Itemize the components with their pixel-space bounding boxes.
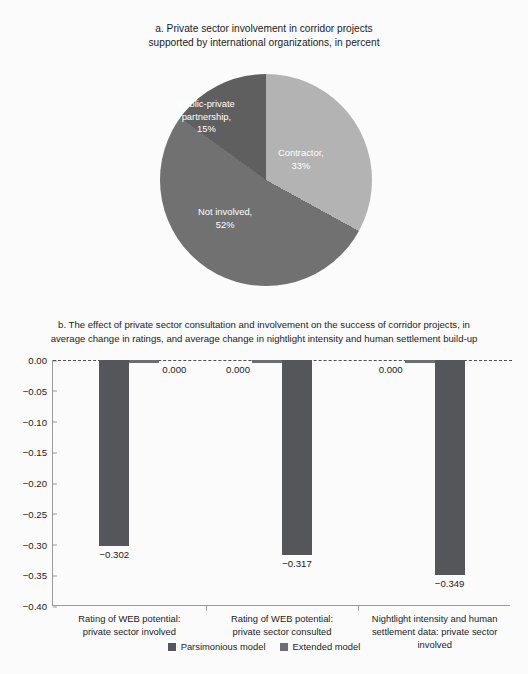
bar-parsimonious[interactable] — [435, 360, 465, 575]
panel-a-title-line-1: a. Private sector involvement in corrido… — [64, 22, 464, 36]
legend-swatch-icon-extended — [280, 643, 288, 651]
pie-chart: Contractor, 33% Public-private partnersh… — [160, 74, 372, 286]
x-axis-category-label-line: private sector consulted — [202, 625, 362, 638]
figure-canvas: a. Private sector involvement in corrido… — [0, 0, 528, 674]
legend-swatch-icon-parsimonious — [168, 643, 176, 651]
y-axis-tick-label: −0.30 — [23, 539, 53, 550]
bar-chart-plot-area: 0.00−0.05−0.10−0.15−0.20−0.25−0.30−0.35−… — [52, 360, 510, 606]
panel-a-title-line-2: supported by international organizations… — [64, 36, 464, 50]
pie-label-public-private-partnership: Public-private partnership, 15% — [178, 98, 235, 136]
pie-label-contractor-line-2: 33% — [292, 160, 311, 171]
y-axis-tick-label: −0.25 — [23, 508, 53, 519]
panel-a-title: a. Private sector involvement in corrido… — [64, 22, 464, 50]
panel-b-title-line-1: b. The effect of private sector consulta… — [34, 318, 494, 332]
pie-label-ppp-line-3: 15% — [197, 123, 216, 134]
y-axis-tick-label: −0.40 — [23, 601, 53, 612]
bar-value-label: 0.000 — [162, 364, 186, 375]
bar-group: 0.000−0.317Rating of WEB potential:priva… — [206, 360, 359, 605]
pie-label-ppp-line-2: partnership, — [182, 111, 232, 122]
panel-b-title-line-2: average change in ratings, and average c… — [34, 332, 494, 346]
panel-a-pie-chart: a. Private sector involvement in corrido… — [0, 0, 528, 305]
bar-value-label: 0.000 — [220, 364, 250, 375]
bar-extended[interactable] — [252, 360, 282, 363]
pie-label-ppp-line-1: Public-private — [178, 98, 235, 109]
x-axis-category-label: Rating of WEB potential:private sector c… — [202, 612, 362, 638]
chart-legend: Parsimonious model Extended model — [0, 641, 528, 652]
y-axis-tick-label: −0.20 — [23, 478, 53, 489]
bar-parsimonious[interactable] — [282, 360, 312, 555]
bar-parsimonious[interactable] — [99, 360, 129, 546]
pie-label-not-involved-line-1: Not involved, — [198, 206, 252, 217]
y-axis-tick-label: −0.10 — [23, 416, 53, 427]
x-axis-tick — [206, 606, 207, 611]
bar-extended[interactable] — [129, 360, 159, 363]
bar-group: −0.3020.000Rating of WEB potential:priva… — [53, 360, 206, 605]
bar-value-label: 0.000 — [373, 364, 403, 375]
legend-item-parsimonious-model[interactable]: Parsimonious model — [168, 641, 266, 652]
y-axis-tick-label: −0.15 — [23, 447, 53, 458]
y-axis-tick-label: 0.00 — [28, 355, 53, 366]
panel-b-bar-chart: b. The effect of private sector consulta… — [0, 305, 528, 674]
legend-label-extended: Extended model — [293, 641, 361, 652]
pie-label-contractor: Contractor, 33% — [278, 147, 324, 172]
x-axis-category-label-line: private sector involved — [49, 625, 209, 638]
legend-label-parsimonious: Parsimonious model — [181, 641, 266, 652]
bar-value-label: −0.302 — [97, 549, 131, 560]
legend-item-extended-model[interactable]: Extended model — [280, 641, 361, 652]
panel-b-title: b. The effect of private sector consulta… — [34, 318, 494, 345]
x-axis-tick — [358, 606, 359, 611]
bar-value-label: −0.317 — [280, 558, 314, 569]
pie-label-not-involved-line-2: 52% — [216, 219, 235, 230]
y-axis-tick-label: −0.05 — [23, 385, 53, 396]
x-axis-category-label-line: Rating of WEB potential: — [49, 612, 209, 625]
y-axis-tick-label: −0.35 — [23, 570, 53, 581]
x-axis-category-label-line: Nightlight intensity and human — [355, 612, 515, 625]
x-axis-category-label: Rating of WEB potential:private sector i… — [49, 612, 209, 638]
bar-value-label: −0.349 — [433, 578, 467, 589]
pie-label-not-involved: Not involved, 52% — [198, 206, 252, 231]
x-axis-category-label-line: Rating of WEB potential: — [202, 612, 362, 625]
pie-label-contractor-line-1: Contractor, — [278, 147, 324, 158]
bar-extended[interactable] — [405, 360, 435, 363]
bar-group: 0.000−0.349Nightlight intensity and huma… — [358, 360, 511, 605]
